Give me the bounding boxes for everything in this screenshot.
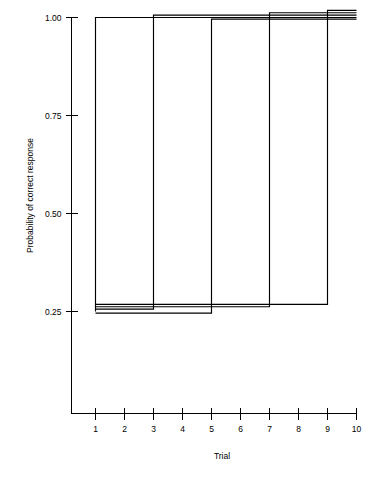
y-axis-tick-label: 0.25	[45, 307, 62, 317]
y-axis-tick-label: 1.00	[45, 13, 62, 23]
x-axis-tick-label: 6	[238, 424, 243, 434]
x-axis-tick-label: 2	[122, 424, 127, 434]
step-curve	[96, 10, 357, 304]
x-axis-tick-label: 7	[267, 424, 272, 434]
x-axis-tick-label: 9	[325, 424, 330, 434]
x-axis-tick-label: 8	[296, 424, 301, 434]
step-curve	[96, 18, 357, 312]
x-axis-tick-label: 10	[352, 424, 362, 434]
x-axis-tick-label: 3	[151, 424, 156, 434]
chart-figure: 0.250.500.751.00 12345678910 Trial Proba…	[0, 0, 374, 479]
step-plot: 0.250.500.751.00 12345678910 Trial Proba…	[0, 0, 374, 479]
x-axis-tick-label: 4	[180, 424, 185, 434]
y-axis-tick-label: 0.50	[45, 209, 62, 219]
step-curve	[96, 15, 357, 309]
y-axis-title: Probability of correct response	[25, 138, 35, 253]
step-curve	[96, 19, 357, 313]
y-axis-tick-labels: 0.250.500.751.00	[45, 13, 62, 317]
x-axis-title: Trial	[214, 451, 230, 461]
x-axis-tick-labels: 12345678910	[93, 424, 361, 434]
data-series-group	[96, 10, 357, 313]
step-curve	[96, 13, 357, 307]
x-axis-tick-label: 1	[93, 424, 98, 434]
y-axis-tick-label: 0.75	[45, 111, 62, 121]
x-axis-tick-label: 5	[209, 424, 214, 434]
